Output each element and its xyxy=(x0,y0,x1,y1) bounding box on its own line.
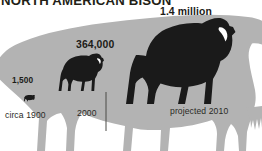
bison-population-infographic: NORTH AMERICAN BISON 1.4 million 364,000… xyxy=(0,0,262,151)
page-title: NORTH AMERICAN BISON xyxy=(1,0,172,8)
value-label-1900: 1,500 xyxy=(12,75,33,85)
value-label-2000: 364,000 xyxy=(76,39,114,50)
axis-label-1900: circa 1900 xyxy=(5,110,46,120)
bison-silhouette-artwork xyxy=(0,0,262,151)
axis-label-2000: 2000 xyxy=(77,108,97,118)
value-label-2010: 1.4 million xyxy=(160,6,212,17)
axis-label-2010: projected 2010 xyxy=(170,106,228,116)
